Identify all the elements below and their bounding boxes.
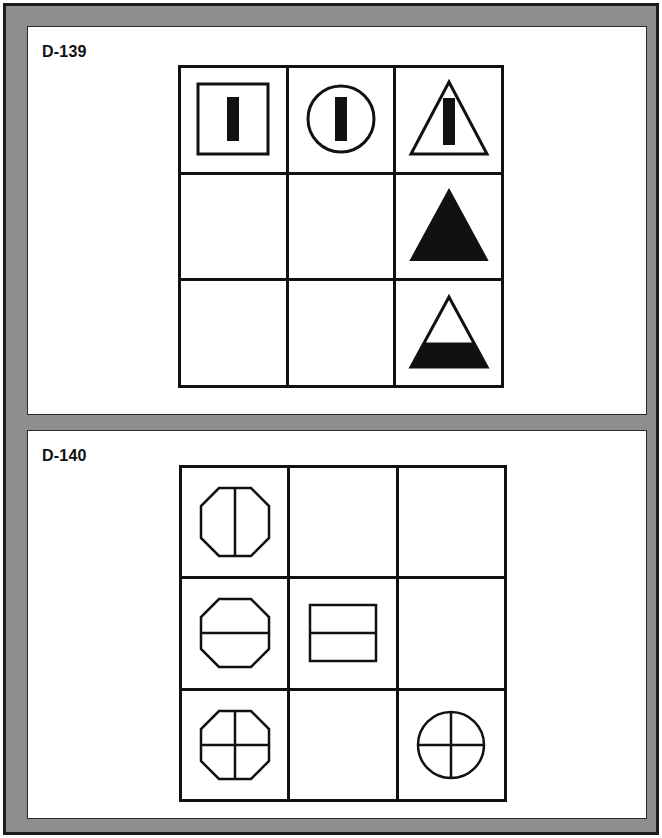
matrix-cell-d139-r1c3[interactable]: [396, 68, 501, 172]
octagon-with-cross-icon: [185, 695, 285, 795]
matrix-cell-d139-r1c2[interactable]: [289, 68, 394, 172]
matrix-cell-d140-r1c3[interactable]: [399, 468, 504, 576]
matrix-cell-d140-r3c2[interactable]: [290, 691, 395, 799]
matrix-cell-d140-r3c1[interactable]: [182, 691, 287, 799]
panel-d-140: D-140: [27, 430, 647, 819]
matrix-cell-d139-r3c1[interactable]: [181, 281, 286, 385]
puzzle-sheet: D-139: [0, 0, 662, 838]
matrix-cell-d140-r3c3[interactable]: [399, 691, 504, 799]
sheet-outer-border: D-139: [3, 3, 659, 835]
octagon-with-vertical-line-icon: [185, 472, 285, 572]
matrix-cell-d140-r2c1[interactable]: [182, 579, 287, 687]
octagon-with-horizontal-line-icon: [185, 583, 285, 683]
panel-label-d-139: D-139: [42, 43, 87, 61]
matrix-cell-d140-r1c1[interactable]: [182, 468, 287, 576]
triangle-outline-with-vertical-bar-icon: [399, 70, 499, 170]
matrix-cell-d140-r1c2[interactable]: [290, 468, 395, 576]
circle-outline-with-vertical-bar-icon: [291, 70, 391, 170]
matrix-grid-d-139: [178, 65, 504, 388]
matrix-cell-d140-r2c2[interactable]: [290, 579, 395, 687]
circle-with-cross-icon: [401, 695, 501, 795]
matrix-cell-d139-r2c1[interactable]: [181, 175, 286, 279]
triangle-filled-solid-icon: [399, 176, 499, 276]
panel-label-d-140: D-140: [42, 447, 87, 465]
matrix-cell-d139-r2c3[interactable]: [396, 175, 501, 279]
square-with-horizontal-line-icon: [293, 583, 393, 683]
matrix-grid-d-140: [179, 465, 507, 802]
square-outline-with-vertical-bar-icon: [183, 70, 283, 170]
matrix-cell-d139-r3c3[interactable]: [396, 281, 501, 385]
panel-d-139: D-139: [27, 26, 647, 415]
matrix-cell-d140-r2c3[interactable]: [399, 579, 504, 687]
matrix-cell-d139-r1c1[interactable]: [181, 68, 286, 172]
matrix-cell-d139-r2c2[interactable]: [289, 175, 394, 279]
matrix-cell-d139-r3c2[interactable]: [289, 281, 394, 385]
triangle-outline-bottom-filled-icon: [399, 283, 499, 383]
